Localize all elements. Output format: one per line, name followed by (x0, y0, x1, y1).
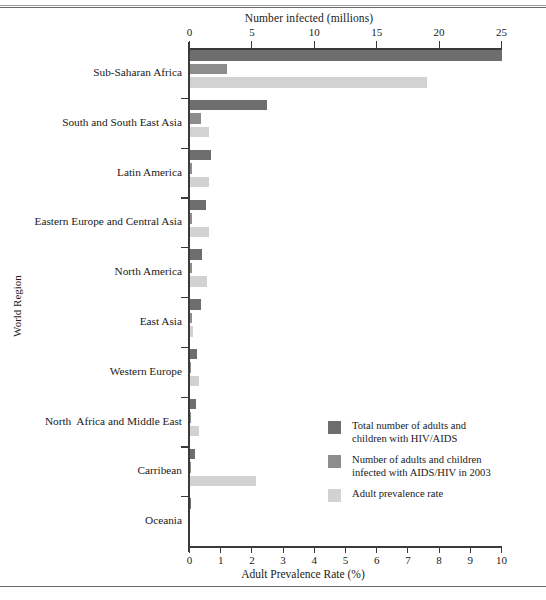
bar (190, 462, 191, 473)
bar (190, 50, 502, 61)
bottom-tick-label: 3 (268, 554, 298, 566)
bottom-tick-mark (376, 546, 377, 553)
bar (190, 376, 199, 387)
bottom-tick-mark (314, 546, 315, 553)
region-label: Carribean (0, 465, 182, 476)
bar (190, 213, 192, 224)
legend-swatch-icon (328, 421, 341, 434)
top-tick-mark (439, 41, 440, 49)
bottom-tick-mark (189, 546, 190, 553)
bar (190, 77, 427, 88)
top-axis-title-text: Number infected (millions) (245, 12, 373, 24)
legend-label: Number of adults and children infected w… (352, 454, 528, 479)
bottom-tick-label: 8 (424, 554, 454, 566)
top-tick-label: 20 (424, 26, 454, 38)
bottom-axis-title: Adult Prevalence Rate (%) (0, 568, 546, 580)
top-tick-mark (314, 41, 315, 49)
bottom-tick-mark (251, 546, 252, 553)
bar (190, 150, 211, 161)
y-tick-mark (181, 297, 189, 298)
bar (190, 276, 207, 287)
top-tick-mark (501, 41, 502, 49)
bottom-tick-mark (407, 546, 408, 553)
top-tick-label: 10 (299, 26, 329, 38)
bottom-tick-label: 0 (175, 554, 205, 566)
bottom-tick-label: 6 (362, 554, 392, 566)
bar (190, 349, 197, 360)
region-label: Sub-Saharan Africa (0, 67, 182, 78)
bar (190, 64, 227, 75)
y-tick-mark (181, 247, 189, 248)
y-tick-mark (181, 148, 189, 149)
y-tick-mark (181, 98, 189, 99)
bar (190, 113, 201, 124)
legend-item: Adult prevalence rate (328, 488, 528, 512)
legend-item: Total number of adults and children with… (328, 420, 528, 445)
legend-swatch-icon (328, 455, 341, 468)
bottom-tick-label: 2 (237, 554, 267, 566)
top-axis-title: Number infected (millions) (0, 12, 546, 24)
bar (190, 100, 267, 111)
bar (190, 227, 209, 238)
legend-label: Total number of adults and children with… (352, 420, 528, 445)
bottom-tick-mark (439, 546, 440, 553)
bar (190, 476, 256, 487)
top-tick-mark (189, 41, 190, 49)
bottom-tick-mark (220, 546, 221, 553)
region-label: Latin America (0, 167, 182, 178)
bottom-tick-label: 10 (487, 554, 517, 566)
region-label: North Africa and Middle East (0, 416, 182, 427)
bar (190, 263, 192, 274)
y-tick-mark (181, 197, 189, 198)
bar (190, 426, 199, 437)
y-tick-mark (181, 496, 189, 497)
top-tick-mark (251, 41, 252, 49)
bar (190, 127, 209, 138)
bottom-tick-label: 7 (393, 554, 423, 566)
y-tick-mark (181, 446, 189, 447)
bar (190, 449, 195, 460)
bar (190, 200, 206, 211)
legend-item: Number of adults and children infected w… (328, 454, 528, 479)
y-tick-mark (181, 397, 189, 398)
bottom-axis-title-text: Adult Prevalence Rate (%) (241, 568, 365, 580)
bar (190, 399, 196, 410)
bottom-tick-label: 4 (299, 554, 329, 566)
bar (190, 177, 209, 188)
bar (190, 313, 192, 324)
region-label: North America (0, 266, 182, 277)
bar (190, 326, 193, 337)
chart-legend: Total number of adults and children with… (328, 420, 528, 521)
region-label: East Asia (0, 316, 182, 327)
y-tick-mark (181, 347, 189, 348)
top-tick-label: 25 (487, 26, 517, 38)
bottom-tick-label: 9 (455, 554, 485, 566)
bottom-tick-label: 1 (206, 554, 236, 566)
bottom-tick-mark (501, 546, 502, 553)
legend-swatch-icon (328, 489, 341, 502)
top-tick-label: 15 (362, 26, 392, 38)
top-tick-label: 5 (237, 26, 267, 38)
legend-label: Adult prevalence rate (352, 488, 528, 501)
top-tick-label: 0 (175, 26, 205, 38)
bottom-tick-mark (283, 546, 284, 553)
hiv-aids-bar-chart: Number infected (millions) Adult Prevale… (0, 0, 546, 600)
region-label: Eastern Europe and Central Asia (0, 216, 182, 227)
region-label: South and South East Asia (0, 117, 182, 128)
bottom-tick-label: 5 (331, 554, 361, 566)
bar (190, 299, 201, 310)
bar (190, 249, 202, 260)
bottom-tick-mark (345, 546, 346, 553)
bottom-tick-mark (470, 546, 471, 553)
top-tick-mark (376, 41, 377, 49)
region-label: Oceania (0, 515, 182, 526)
bar (190, 163, 192, 174)
region-label: Western Europe (0, 366, 182, 377)
